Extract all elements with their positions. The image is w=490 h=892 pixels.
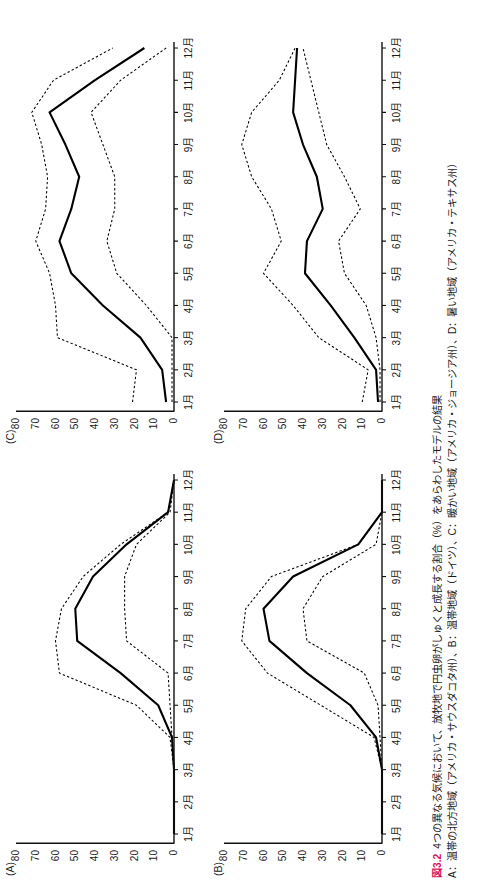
y-tick-label: 20 (130, 418, 140, 444)
x-tick-label: 8月 (180, 161, 195, 193)
x-tick-label: 5月 (388, 257, 403, 289)
x-tick-label: 2月 (180, 354, 195, 386)
y-tick-label: 20 (338, 850, 348, 876)
x-tick-label: 9月 (388, 561, 403, 593)
y-tick-label: 70 (31, 418, 41, 444)
x-tick-label: 11月 (388, 496, 403, 528)
y-tick-label: 10 (357, 418, 367, 444)
y-tick-label: 0 (169, 850, 179, 876)
plot-area-a: 807060504030201001月2月3月4月5月6月7月8月9月10月11… (16, 472, 174, 844)
x-tick-label: 12月 (180, 32, 195, 64)
x-tick-label: 5月 (180, 257, 195, 289)
y-tick-label: 30 (110, 850, 120, 876)
x-tick-label: 9月 (180, 129, 195, 161)
axis-lines (16, 36, 188, 412)
y-tick-label: 70 (239, 418, 249, 444)
x-tick-label: 3月 (388, 754, 403, 786)
y-tick-label: 60 (259, 850, 269, 876)
axis-lines (224, 36, 396, 412)
y-tick-label: 20 (130, 850, 140, 876)
x-tick-label: 2月 (180, 786, 195, 818)
x-tick-label: 10月 (388, 96, 403, 128)
x-tick-label: 1月 (388, 818, 403, 850)
y-tick-label: 30 (318, 850, 328, 876)
y-tick-label: 80 (219, 418, 229, 444)
y-tick-label: 0 (169, 418, 179, 444)
y-tick-label: 80 (219, 850, 229, 876)
plot-area-c: 807060504030201001月2月3月4月5月6月7月8月9月10月11… (16, 40, 174, 412)
x-tick-label: 11月 (388, 64, 403, 96)
figure-number-label: 図3.2 (432, 854, 443, 878)
x-tick-label: 6月 (388, 225, 403, 257)
figure-page: (A) 807060504030201001月2月3月4月5月6月7月8月9月1… (0, 0, 490, 892)
figure-panel-grid: (A) 807060504030201001月2月3月4月5月6月7月8月9月1… (6, 14, 418, 878)
x-tick-label: 3月 (388, 322, 403, 354)
x-tick-label: 9月 (180, 561, 195, 593)
x-tick-label: 10月 (180, 528, 195, 560)
x-tick-label: 10月 (388, 528, 403, 560)
figure-caption: 図3.24つの異なる気候において、放牧地で円虫卵がしゅくと成長する割合（%）をあ… (430, 14, 460, 878)
y-tick-label: 50 (278, 850, 288, 876)
x-tick-label: 6月 (180, 225, 195, 257)
y-tick-label: 40 (298, 850, 308, 876)
x-tick-label: 7月 (388, 625, 403, 657)
x-tick-label: 6月 (388, 657, 403, 689)
x-tick-label: 4月 (180, 289, 195, 321)
x-tick-label: 2月 (388, 786, 403, 818)
x-tick-label: 1月 (388, 386, 403, 418)
y-tick-label: 10 (149, 418, 159, 444)
x-tick-label: 11月 (180, 64, 195, 96)
x-tick-label: 10月 (180, 96, 195, 128)
x-tick-label: 6月 (180, 657, 195, 689)
y-tick-label: 0 (377, 850, 387, 876)
y-tick-label: 60 (259, 418, 269, 444)
y-tick-label: 30 (318, 418, 328, 444)
x-tick-label: 7月 (180, 625, 195, 657)
x-tick-label: 9月 (388, 129, 403, 161)
x-tick-label: 2月 (388, 354, 403, 386)
x-tick-label: 8月 (388, 161, 403, 193)
x-tick-label: 1月 (180, 386, 195, 418)
x-tick-label: 5月 (388, 689, 403, 721)
axis-lines (16, 468, 188, 844)
x-tick-label: 3月 (180, 322, 195, 354)
x-tick-label: 5月 (180, 689, 195, 721)
y-tick-label: 60 (51, 850, 61, 876)
y-tick-label: 50 (278, 418, 288, 444)
y-tick-label: 30 (110, 418, 120, 444)
caption-line-2: A：温帯の北方地域（アメリカ・サウスダコタ州）、B：温帯地域（ドイツ）、C：暖か… (445, 14, 460, 878)
y-tick-label: 70 (239, 850, 249, 876)
x-tick-label: 8月 (180, 593, 195, 625)
x-tick-label: 12月 (388, 464, 403, 496)
x-tick-label: 4月 (388, 721, 403, 753)
x-tick-label: 3月 (180, 754, 195, 786)
y-tick-label: 40 (298, 418, 308, 444)
y-tick-label: 50 (70, 418, 80, 444)
plot-area-d: 807060504030201001月2月3月4月5月6月7月8月9月10月11… (224, 40, 382, 412)
caption-text-2: A：温帯の北方地域（アメリカ・サウスダコタ州）、B：温帯地域（ドイツ）、C：暖か… (447, 158, 458, 878)
y-tick-label: 50 (70, 850, 80, 876)
y-tick-label: 0 (377, 418, 387, 444)
y-tick-label: 10 (149, 850, 159, 876)
rotated-figure-canvas: (A) 807060504030201001月2月3月4月5月6月7月8月9月1… (0, 0, 490, 892)
x-tick-label: 4月 (180, 721, 195, 753)
y-tick-label: 80 (11, 850, 21, 876)
x-tick-label: 7月 (180, 193, 195, 225)
y-tick-label: 70 (31, 850, 41, 876)
y-tick-label: 60 (51, 418, 61, 444)
y-tick-label: 20 (338, 418, 348, 444)
x-tick-label: 8月 (388, 593, 403, 625)
x-tick-label: 12月 (388, 32, 403, 64)
x-tick-label: 1月 (180, 818, 195, 850)
axis-lines (224, 468, 396, 844)
y-tick-label: 10 (357, 850, 367, 876)
y-tick-label: 40 (90, 850, 100, 876)
x-tick-label: 12月 (180, 464, 195, 496)
caption-line-1: 図3.24つの異なる気候において、放牧地で円虫卵がしゅくと成長する割合（%）をあ… (430, 14, 445, 878)
x-tick-label: 4月 (388, 289, 403, 321)
x-tick-label: 7月 (388, 193, 403, 225)
y-tick-label: 80 (11, 418, 21, 444)
caption-text-1: 4つの異なる気候において、放牧地で円虫卵がしゅくと成長する割合（%）をあらわした… (432, 395, 443, 849)
y-tick-label: 40 (90, 418, 100, 444)
x-tick-label: 11月 (180, 496, 195, 528)
